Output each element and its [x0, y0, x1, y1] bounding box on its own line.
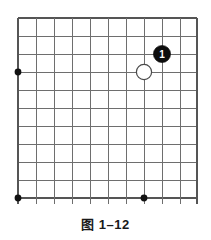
star-point-bottom-left [15, 195, 22, 202]
black-stone-move-1-label: 1 [159, 49, 165, 60]
go-board[interactable]: 1 [0, 0, 211, 212]
star-point-left [15, 69, 22, 76]
stones[interactable]: 1 [136, 45, 170, 79]
white-stone[interactable] [136, 64, 151, 79]
figure-caption: 图 1–12 [0, 214, 211, 233]
grid-lines-vertical [18, 18, 197, 204]
star-points [15, 69, 148, 202]
figure-container: 1 图 1–12 [0, 0, 211, 240]
go-board-canvas[interactable]: 1 [0, 0, 211, 212]
star-point-bottom-center [141, 195, 148, 202]
